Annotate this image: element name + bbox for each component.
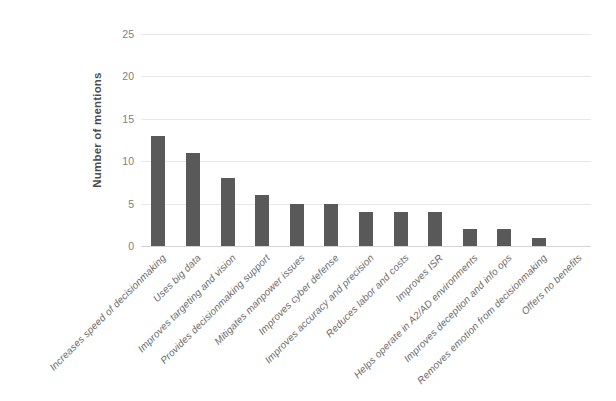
bar[interactable] (359, 212, 373, 246)
bar[interactable] (324, 204, 338, 246)
y-axis-tick-label: 5 (128, 198, 134, 210)
bar[interactable] (497, 229, 511, 246)
x-axis-tick-label: Increases speed of decisionmaking (48, 252, 169, 373)
bar[interactable] (463, 229, 477, 246)
bar[interactable] (255, 195, 269, 246)
bar[interactable] (428, 212, 442, 246)
plot-area: 0510152025 (141, 34, 591, 246)
gridline (141, 161, 591, 162)
x-axis-tick-label: Improves cyber defense (256, 252, 341, 337)
x-axis-tick-label: Reduces labor and costs (323, 252, 410, 339)
gridline (141, 76, 591, 77)
y-axis-tick-label: 25 (122, 28, 134, 40)
bar[interactable] (394, 212, 408, 246)
gridline (141, 119, 591, 120)
gridline (141, 34, 591, 35)
x-axis-tick-label: Improves targeting and vision (135, 252, 237, 354)
y-axis-tick-label: 15 (122, 113, 134, 125)
bar[interactable] (221, 178, 235, 246)
y-axis-tick-label: 20 (122, 70, 134, 82)
gridline (141, 246, 591, 247)
bar[interactable] (151, 136, 165, 246)
x-axis-tick-label: Improves deception and info ops (402, 252, 514, 364)
y-axis-tick-label: 10 (122, 155, 134, 167)
y-axis-tick-label: 0 (128, 240, 134, 252)
bar[interactable] (290, 204, 304, 246)
x-axis-tick-label: Improves accuracy and precision (263, 252, 376, 365)
x-axis-tick-label: Mitigates manpower issues (212, 252, 307, 347)
bar[interactable] (532, 238, 546, 246)
x-axis-tick-label: Improves ISR (394, 252, 445, 303)
x-axis-tick-label: Removes emotion from decisionmaking (415, 252, 549, 386)
gridline (141, 204, 591, 205)
x-axis-tick-label: Offers no benefits (519, 252, 584, 317)
x-axis-tick-label: Uses big data (151, 252, 203, 304)
y-axis-title: Number of mentions (88, 15, 106, 245)
x-axis-tick-label: Provides decisionmaking support (158, 252, 272, 366)
x-axis-tick-label: Helps operate in A2/AD environments (351, 252, 479, 380)
bar[interactable] (186, 153, 200, 246)
bar-chart: Number of mentions 0510152025 Increases … (0, 0, 616, 401)
